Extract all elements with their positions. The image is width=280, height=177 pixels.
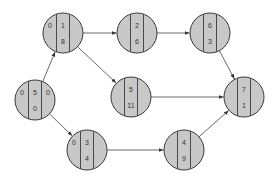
edge-arrow-n6-n7 (219, 51, 234, 79)
node-circle (117, 13, 157, 53)
node-top-value: 4 (182, 139, 186, 146)
node-top-value: 7 (242, 86, 246, 93)
node-left-value: 0 (72, 139, 76, 146)
node-top-value: 5 (129, 86, 133, 93)
node-bottom-value: 1 (242, 102, 246, 109)
node-n6: 63 (190, 13, 230, 53)
node-top-value: 5 (33, 89, 37, 96)
node-top-value: 3 (85, 139, 89, 146)
node-circle (164, 130, 204, 170)
node-circle (43, 13, 83, 53)
node-left-value: 0 (48, 22, 52, 29)
node-top-value: 2 (135, 22, 139, 29)
node-n5: 511 (111, 77, 151, 117)
node-top-value: 6 (208, 22, 212, 29)
node-bottom-value: 4 (85, 155, 89, 162)
node-circle (224, 77, 264, 117)
node-circle (67, 130, 107, 170)
node-top-value: 1 (61, 22, 65, 29)
node-bottom-value: 3 (208, 38, 212, 45)
node-circle (190, 13, 230, 53)
node-n7: 71 (224, 77, 264, 117)
network-diagram: 500018026635117134049 (0, 0, 280, 177)
edge-arrow-n1-n5 (78, 47, 117, 83)
nodes-layer: 500018026635117134049 (15, 13, 264, 170)
node-circle (111, 77, 151, 117)
node-right-value: 0 (46, 89, 50, 96)
edge-arrow-n4-n7 (199, 111, 229, 137)
node-bottom-value: 0 (33, 105, 37, 112)
node-n0: 5000 (15, 80, 55, 120)
node-n3: 340 (67, 130, 107, 170)
node-bottom-value: 11 (127, 102, 134, 109)
node-n4: 49 (164, 130, 204, 170)
node-n1: 180 (43, 13, 83, 53)
edge-arrow-n0-n1 (43, 52, 55, 82)
node-bottom-value: 8 (61, 38, 65, 45)
node-n2: 26 (117, 13, 157, 53)
edge-arrow-n0-n3 (49, 114, 72, 136)
node-left-value: 0 (20, 89, 24, 96)
diagram-canvas: 500018026635117134049 (0, 0, 280, 177)
node-circle (15, 80, 55, 120)
node-bottom-value: 6 (135, 38, 139, 45)
node-bottom-value: 9 (182, 155, 186, 162)
